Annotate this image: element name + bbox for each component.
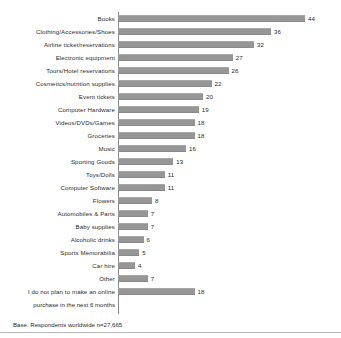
horizontal-bar-chart: Books44Clothing/Accessories/Shoes36Airli… — [0, 0, 341, 338]
bar-row: Computer Software11 — [0, 181, 341, 194]
category-label: Music — [0, 145, 118, 152]
bar — [118, 119, 195, 126]
bar-value-label: 11 — [168, 184, 174, 191]
bar-value-label: 32 — [257, 41, 264, 48]
plot-area: Books44Clothing/Accessories/Shoes36Airli… — [0, 12, 341, 298]
bar-row: Computer Hardware19 — [0, 103, 341, 116]
bar-value-label: 19 — [202, 106, 209, 113]
category-label: Alcoholic drinks — [0, 236, 118, 243]
bar — [118, 15, 305, 22]
wrapped-category-label-line2: purchase in the next 6 months — [0, 301, 118, 308]
bar-value-label: 11 — [168, 171, 174, 178]
category-label: Groceries — [0, 132, 118, 139]
category-label: Event tickets — [0, 93, 118, 100]
bar-row: Groceries18 — [0, 129, 341, 142]
bar-value-label: 27 — [236, 54, 243, 61]
category-label: Toys/Dolls — [0, 171, 118, 178]
bar-cell: 26 — [118, 64, 341, 77]
bar-row: Clothing/Accessories/Shoes36 — [0, 25, 341, 38]
bar-row: Videos/DVDs/Games18 — [0, 116, 341, 129]
bar-row: Cosmetics/nutrition supplies22 — [0, 77, 341, 90]
bar-cell: 11 — [118, 168, 341, 181]
bar — [118, 236, 144, 243]
bar-row: Tours/Hotel reservations26 — [0, 64, 341, 77]
category-label: Other — [0, 275, 118, 282]
bar-value-label: 18 — [198, 119, 205, 126]
bar — [118, 54, 233, 61]
bar-row: Car hire4 — [0, 259, 341, 272]
bar-value-label: 20 — [206, 93, 213, 100]
bar — [118, 275, 148, 282]
bar-value-label: 36 — [274, 28, 281, 35]
category-label: Computer Hardware — [0, 106, 118, 113]
bar-value-label: 7 — [151, 210, 154, 217]
bar-value-label: 5 — [142, 249, 145, 256]
category-label: Car hire — [0, 262, 118, 269]
bar — [118, 145, 186, 152]
category-label: Airline ticket/reservations — [0, 41, 118, 48]
bar — [118, 132, 195, 139]
bar — [118, 184, 165, 191]
bar — [118, 249, 139, 256]
bar-cell: 18 — [118, 285, 341, 298]
bar-value-label: 44 — [308, 15, 315, 22]
bar-cell: 6 — [118, 233, 341, 246]
bar — [118, 80, 212, 87]
bar-row: Flowers8 — [0, 194, 341, 207]
category-label: Baby supplies — [0, 223, 118, 230]
base-note: Base: Respondents worldwide n=27,665 — [13, 321, 122, 329]
category-label: Tours/Hotel reservations — [0, 67, 118, 74]
bar — [118, 28, 271, 35]
bar-row: Sports Memorabilia5 — [0, 246, 341, 259]
bar-cell: 11 — [118, 181, 341, 194]
bar — [118, 223, 148, 230]
bar-row: Music16 — [0, 142, 341, 155]
category-label: Sporting Goods — [0, 158, 118, 165]
bar-row: Alcoholic drinks6 — [0, 233, 341, 246]
bar — [118, 93, 203, 100]
bar-value-label: 7 — [151, 275, 154, 282]
bar-value-label: 18 — [198, 132, 205, 139]
bar-cell: 18 — [118, 116, 341, 129]
bar-cell: 13 — [118, 155, 341, 168]
bar-cell: 20 — [118, 90, 341, 103]
bar-value-label: 18 — [198, 288, 205, 295]
bar-value-label: 13 — [176, 158, 183, 165]
bar — [118, 197, 152, 204]
category-label: Cosmetics/nutrition supplies — [0, 80, 118, 87]
category-label: Videos/DVDs/Games — [0, 119, 118, 126]
category-label: Clothing/Accessories/Shoes — [0, 28, 118, 35]
bar — [118, 288, 195, 295]
bar-cell: 36 — [118, 25, 341, 38]
bar-cell: 16 — [118, 142, 341, 155]
category-label: Automobiles & Parts — [0, 210, 118, 217]
bar-row: Books44 — [0, 12, 341, 25]
bar-cell: 8 — [118, 194, 341, 207]
bar-cell: 18 — [118, 129, 341, 142]
bar-value-label: 26 — [232, 67, 239, 74]
category-label: Books — [0, 15, 118, 22]
bar-row: Baby supplies7 — [0, 220, 341, 233]
bar-cell: 44 — [118, 12, 341, 25]
bar-row: Toys/Dolls11 — [0, 168, 341, 181]
bar — [118, 171, 165, 178]
category-label: Computer Software — [0, 184, 118, 191]
category-label: Sports Memorabilia — [0, 249, 118, 256]
bar — [118, 262, 135, 269]
bar-value-label: 8 — [155, 197, 158, 204]
bar — [118, 41, 254, 48]
bar — [118, 210, 148, 217]
bar-row: Automobiles & Parts7 — [0, 207, 341, 220]
category-label: Flowers — [0, 197, 118, 204]
bar-cell: 32 — [118, 38, 341, 51]
bar-row: Event tickets20 — [0, 90, 341, 103]
category-label: Electronic equipment — [0, 54, 118, 61]
bar-cell: 7 — [118, 207, 341, 220]
bar-row: Electronic equipment27 — [0, 51, 341, 64]
bar-cell: 5 — [118, 246, 341, 259]
bar-cell: 27 — [118, 51, 341, 64]
bar-value-label: 22 — [215, 80, 222, 87]
bar-cell: 19 — [118, 103, 341, 116]
bar-row: Airline ticket/reservations32 — [0, 38, 341, 51]
bar-value-label: 7 — [151, 223, 154, 230]
